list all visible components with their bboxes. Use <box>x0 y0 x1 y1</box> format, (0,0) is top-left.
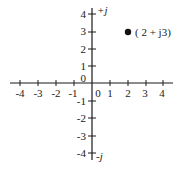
y-label: -1 <box>77 95 86 107</box>
y-label: 0 <box>81 72 87 84</box>
positive-imaginary-label: +j <box>97 4 107 16</box>
x-label: -4 <box>15 87 25 99</box>
point-marker <box>125 29 131 35</box>
x-label: 3 <box>142 87 148 99</box>
y-label: -3 <box>77 130 87 142</box>
y-label: 3 <box>81 25 87 37</box>
y-label: 2 <box>81 43 87 55</box>
x-label: 0 <box>95 87 101 99</box>
x-label: 1 <box>107 87 113 99</box>
y-label: 4 <box>81 8 87 20</box>
complex-plane-diagram: -4 -3 -2 -1 0 1 2 3 4 4 3 2 1 0 -1 -2 -3… <box>0 0 180 175</box>
negative-imaginary-label: -j <box>96 150 103 162</box>
y-label: 1 <box>81 60 87 72</box>
y-label: -2 <box>77 112 86 124</box>
x-tick-labels: -4 -3 -2 -1 0 1 2 3 4 <box>15 87 165 99</box>
x-label: -2 <box>51 87 60 99</box>
x-label: 4 <box>159 87 165 99</box>
point-label: ( 2 + j3) <box>135 26 171 39</box>
y-label: -4 <box>77 147 87 159</box>
x-label: 2 <box>125 87 131 99</box>
x-label: -3 <box>33 87 43 99</box>
